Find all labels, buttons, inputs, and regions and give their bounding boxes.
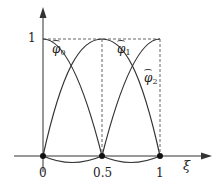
node-dot-0 [40,153,46,159]
label-phi2: φ2 [144,72,158,86]
x-axis-arrow-icon [201,153,212,160]
phi-symbol: φ [144,72,152,84]
label-phi1: φ1 [117,43,131,57]
x-tick-0: 0 [39,167,47,179]
node-dot-1 [157,153,163,159]
y-axis-arrow-icon [40,7,47,18]
curve-phi2 [43,39,160,163]
y-tick-1: 1 [28,32,36,44]
label-phi1-index: 1 [125,48,130,57]
x-tick-1: 1 [156,167,164,179]
x-tick-half: 0.5 [93,167,112,179]
label-phi2-index: 2 [152,77,157,86]
axes [14,7,212,172]
curve-phi0 [43,39,160,163]
phi-symbol: φ [117,43,125,55]
label-phi0: φ0 [52,43,66,57]
x-axis-label: ξ [183,159,190,172]
basis-curves [43,39,160,163]
node-dot-half [99,153,105,159]
phi-symbol: φ [52,43,60,55]
label-phi0-index: 0 [60,48,65,57]
